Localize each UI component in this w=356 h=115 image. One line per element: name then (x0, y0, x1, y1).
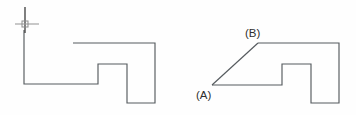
point-b-label: (B) (245, 27, 261, 39)
technical-drawing: (A) (B) (0, 0, 356, 115)
right-profile-outline (212, 43, 339, 103)
chamfer-diagonal-line (212, 43, 258, 85)
figure-canvas: (A) (B) (0, 0, 356, 115)
left-profile-outline (24, 30, 155, 103)
crosshair-cursor (15, 7, 39, 33)
point-a-label: (A) (196, 89, 212, 101)
